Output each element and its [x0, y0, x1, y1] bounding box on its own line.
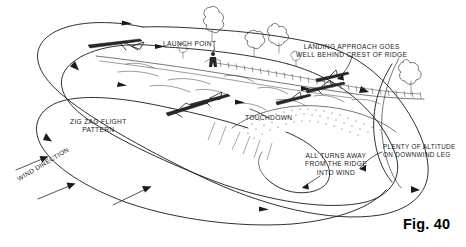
label-all-turns-line2: FROM THE RIDGE: [305, 160, 367, 167]
label-landing-approach: LANDING APPROACH GOESWELL BEHIND CREST O…: [296, 43, 407, 60]
glider-mid-center: [190, 92, 230, 107]
pilot-figure: [205, 52, 221, 67]
tree-icon: [399, 59, 422, 95]
figure-container: .pline { fill:none; stroke:#1a1a1e; stro…: [0, 0, 466, 247]
label-plenty-of-altitude: PLENTY OF ALTITUDEON DOWNWIND LEG: [383, 143, 456, 159]
label-plenty-altitude-line2: ON DOWNWIND LEG: [383, 151, 451, 158]
label-landing-approach-line2: WELL BEHIND CREST OF RIDGE: [296, 51, 407, 58]
glider-ridge-left: [276, 92, 311, 105]
label-all-turns-line1: ALL TURNS AWAY: [306, 152, 367, 159]
figure-number: Fig. 40: [403, 216, 450, 232]
label-all-turns-away: ALL TURNS AWAYFROM THE RIDGEINTO WIND: [305, 152, 367, 177]
label-launch-point: LAUNCH POINT: [163, 40, 216, 48]
glider-top: [88, 39, 144, 50]
stippled-hill: [208, 106, 396, 160]
downwind-leg-curve: [374, 58, 401, 188]
label-zigzag-line1: ZIG ZAG FLIGHT: [70, 118, 127, 125]
label-zigzag-line2: PATTERN: [82, 126, 114, 133]
label-touchdown: TOUCHDOWN: [245, 114, 292, 122]
label-all-turns-line3: INTO WIND: [317, 169, 355, 176]
label-plenty-altitude-line1: PLENTY OF ALTITUDE: [383, 143, 456, 150]
label-landing-approach-line1: LANDING APPROACH GOES: [304, 43, 400, 50]
label-zigzag-flight-pattern: ZIG ZAG FLIGHTPATTERN: [70, 118, 127, 135]
tree-icon: [203, 6, 223, 42]
tree-icon: [268, 23, 289, 53]
